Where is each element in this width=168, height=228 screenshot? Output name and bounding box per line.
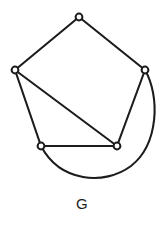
- graph-edge-right-to-bottom-right: [117, 70, 145, 146]
- figure-caption: G: [76, 195, 88, 212]
- graph-diagram: G: [0, 0, 168, 228]
- graph-edge-left-to-bottom-left: [15, 70, 41, 146]
- graph-vertex-top: [76, 14, 83, 21]
- graph-vertex-left: [12, 67, 19, 74]
- graph-vertex-bottom-right: [114, 143, 121, 150]
- figure-root: G: [0, 0, 168, 228]
- graph-edge-right-to-bottom-left-arc: [41, 70, 155, 178]
- graph-edge-top-to-left: [15, 17, 79, 70]
- graph-edge-left-to-bottom-right: [15, 70, 117, 146]
- graph-vertex-right: [142, 67, 149, 74]
- graph-vertex-bottom-left: [38, 143, 45, 150]
- graph-edge-top-to-right: [79, 17, 145, 70]
